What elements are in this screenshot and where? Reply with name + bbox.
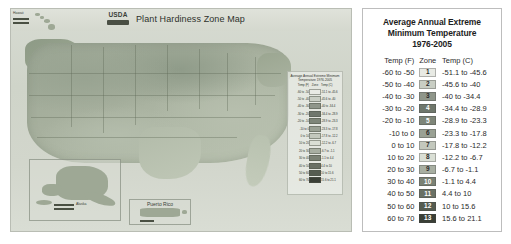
map-embedded-zone-swatch: [309, 103, 321, 109]
map-embedded-legend-row: 20 to 30-6.7 to -1.1: [289, 147, 341, 154]
map-state-boundary: [37, 137, 237, 138]
map-embedded-legend-celsius: -34.4 to -28.9: [321, 112, 339, 116]
map-embedded-legend-fahrenheit: 60 to 70: [291, 178, 309, 182]
temperature-legend-panel: Average Annual Extreme Minimum Temperatu…: [362, 8, 502, 232]
legend-row: 50 to 601210 to 15.6: [369, 200, 495, 212]
legend-row: 10 to 208-12.2 to -6.7: [369, 151, 495, 163]
map-embedded-zone-swatch: [309, 118, 321, 124]
map-embedded-legend-fahrenheit: 20 to 30: [291, 149, 309, 153]
map-embedded-legend-fahrenheit: -30 to -20: [291, 112, 309, 116]
zone-swatch: 2: [419, 80, 436, 89]
map-embedded-legend: Average Annual Extreme Minimum Temperatu…: [287, 71, 343, 195]
legend-fahrenheit-range: -30 to -20: [369, 104, 417, 113]
map-embedded-legend-fahrenheit: -20 to -10: [291, 119, 309, 123]
legend-celsius-range: -51.1 to -45.6: [438, 68, 495, 77]
map-embedded-legend-fahrenheit: 50 to 60: [291, 171, 309, 175]
map-embedded-legend-row: 10 to 20-12.2 to -6.7: [289, 140, 341, 147]
map-state-boundary: [167, 45, 168, 111]
map-state-boundary: [71, 45, 72, 127]
map-embedded-legend-celsius: -23.3 to -17.8: [321, 127, 339, 131]
legend-zone-cell: 10: [417, 177, 438, 186]
usda-logo-bar: [107, 20, 129, 25]
map-state-boundary: [135, 45, 136, 125]
legend-zone-cell: 6: [417, 129, 438, 138]
map-embedded-legend-fahrenheit: 30 to 40: [291, 156, 309, 160]
legend-fahrenheit-range: -50 to -40: [369, 80, 417, 89]
map-embedded-legend-col-f: Temp (F): [291, 83, 309, 87]
map-state-boundary: [227, 53, 228, 111]
legend-row: -30 to -204-34.4 to -28.9: [369, 103, 495, 115]
legend-celsius-range: -23.3 to -17.8: [438, 129, 495, 138]
map-embedded-legend-fahrenheit: 10 to 20: [291, 141, 309, 145]
legend-row: 30 to 4010-1.1 to 4.4: [369, 176, 495, 188]
map-embedded-legend-row: 0 to 10-17.8 to -12.2: [289, 132, 341, 139]
map-embedded-zone-swatch: [309, 155, 321, 161]
legend-row: 20 to 309-6.7 to -1.1: [369, 164, 495, 176]
legend-fahrenheit-range: 50 to 60: [369, 202, 417, 211]
legend-column-headers: Temp (F) Zone Temp (C): [369, 56, 495, 66]
map-embedded-legend-rows: -60 to -50-51.1 to -45.6-50 to -40-45.6 …: [289, 88, 341, 184]
map-title-bar: USDA Plant Hardiness Zone Map: [11, 9, 351, 31]
legend-row: 60 to 701315.6 to 21.1: [369, 212, 495, 224]
legend-fahrenheit-range: -20 to -10: [369, 116, 417, 125]
map-embedded-legend-fahrenheit: 40 to 50: [291, 164, 309, 168]
legend-fahrenheit-range: 40 to 50: [369, 189, 417, 198]
zone-swatch: 11: [419, 189, 436, 198]
legend-fahrenheit-range: -10 to 0: [369, 129, 417, 138]
map-embedded-zone-swatch: [309, 163, 321, 169]
legend-row: -50 to -402-45.6 to -40: [369, 78, 495, 90]
map-embedded-zone-swatch: [309, 111, 321, 117]
map-embedded-legend-celsius: 10 to 15.6: [321, 171, 339, 175]
map-state-boundary: [255, 57, 256, 105]
legend-zone-cell: 5: [417, 116, 438, 125]
map-embedded-legend-celsius: -1.1 to 4.4: [321, 156, 339, 160]
map-embedded-legend-row: 50 to 6010 to 15.6: [289, 169, 341, 176]
legend-fahrenheit-range: 20 to 30: [369, 165, 417, 174]
map-embedded-legend-row: -10 to 0-23.3 to -17.8: [289, 125, 341, 132]
legend-title-line2: Minimum Temperature: [369, 28, 495, 39]
legend-celsius-range: -17.8 to -12.2: [438, 141, 495, 150]
legend-zone-cell: 7: [417, 141, 438, 150]
map-embedded-legend-celsius: -12.2 to -6.7: [321, 141, 339, 145]
map-embedded-legend-row: 30 to 40-1.1 to 4.4: [289, 155, 341, 162]
legend-zone-cell: 4: [417, 104, 438, 113]
map-title: Plant Hardiness Zone Map: [136, 14, 245, 24]
legend-fahrenheit-range: 0 to 10: [369, 141, 417, 150]
map-state-boundary: [199, 49, 200, 109]
map-embedded-zone-swatch: [309, 126, 321, 132]
legend-row: -60 to -501-51.1 to -45.6: [369, 66, 495, 78]
zone-swatch: 9: [419, 165, 436, 174]
legend-header-fahrenheit: Temp (F): [369, 56, 417, 65]
map-inset-puerto-rico: Puerto Rico: [129, 199, 191, 225]
inset-alaska-label: Alaska: [76, 202, 87, 206]
map-embedded-zone-swatch: [309, 177, 321, 183]
legend-fahrenheit-range: 10 to 20: [369, 153, 417, 162]
legend-row: -20 to -105-28.9 to -23.3: [369, 115, 495, 127]
map-embedded-legend-celsius: -28.9 to -23.3: [321, 119, 339, 123]
map-embedded-zone-swatch: [309, 96, 321, 102]
legend-celsius-range: -28.9 to -23.3: [438, 116, 495, 125]
map-embedded-zone-swatch: [309, 133, 321, 139]
map-embedded-legend-row: -60 to -50-51.1 to -45.6: [289, 88, 341, 95]
map-state-boundary: [31, 117, 261, 118]
map-embedded-legend-col-c: Temp (C): [321, 83, 339, 87]
map-embedded-legend-celsius: 15.6 to 21.1: [321, 178, 339, 182]
map-embedded-legend-row: -20 to -10-28.9 to -23.3: [289, 118, 341, 125]
zone-swatch: 7: [419, 141, 436, 150]
map-embedded-legend-row: -40 to -30-40 to -34.4: [289, 103, 341, 110]
inset-hawaii-label: Hawaii: [13, 11, 24, 15]
zone-swatch: 6: [419, 129, 436, 138]
legend-title-line3: 1976-2005: [369, 39, 495, 50]
map-embedded-legend-row: 60 to 7015.6 to 21.1: [289, 177, 341, 184]
map-embedded-legend-row: -50 to -40-45.6 to -40: [289, 95, 341, 102]
legend-zone-cell: 3: [417, 92, 438, 101]
map-state-boundary: [29, 73, 281, 74]
zone-swatch: 8: [419, 153, 436, 162]
legend-celsius-range: -1.1 to 4.4: [438, 177, 495, 186]
zone-swatch: 1: [419, 68, 436, 77]
map-embedded-legend-celsius: 4.4 to 10: [321, 164, 339, 168]
map-embedded-legend-title: Average Annual Extreme Minimum Temperatu…: [289, 74, 341, 82]
legend-zone-cell: 1: [417, 68, 438, 77]
legend-row: 40 to 50114.4 to 10: [369, 188, 495, 200]
hardiness-map-panel: USDA Plant Hardiness Zone Map Hawaii Ala…: [10, 8, 352, 232]
